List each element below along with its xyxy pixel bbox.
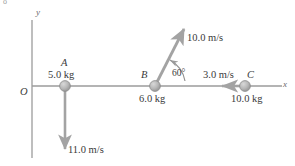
diagram-canvas — [0, 0, 295, 166]
y-axis-label: y — [36, 8, 40, 17]
object-b-velocity: 10.0 m/s — [187, 33, 223, 44]
object-a-velocity: 11.0 m/s — [68, 145, 104, 156]
origin-label: O — [20, 87, 28, 98]
object-b-name: B — [141, 70, 147, 81]
object-b-mass: 6.0 kg — [139, 94, 165, 105]
corner-mark: o — [3, 0, 7, 6]
object-c-velocity: 3.0 m/s — [203, 70, 234, 81]
object-c-name: C — [247, 70, 254, 81]
object-a-mass: 5.0 kg — [48, 70, 74, 81]
object-b-angle: 60° — [172, 69, 185, 79]
ball-a — [60, 81, 71, 92]
ball-b — [150, 81, 161, 92]
x-axis-label: x — [283, 80, 287, 89]
physics-momentum-diagram: o y x O A 5.0 kg 11.0 m/s B 6.0 kg 10.0 … — [0, 0, 295, 166]
object-a-name: A — [61, 58, 67, 69]
ball-c — [240, 81, 251, 92]
object-c-mass: 10.0 kg — [231, 94, 263, 105]
